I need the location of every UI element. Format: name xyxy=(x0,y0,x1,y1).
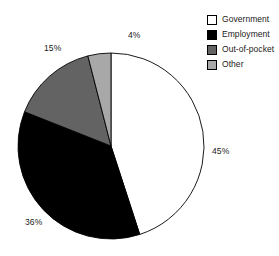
slice-label-employment: 36% xyxy=(25,217,42,227)
legend-swatch-icon xyxy=(207,60,217,70)
legend-item[interactable]: Other xyxy=(207,57,279,72)
slice-label-out-of-pocket: 15% xyxy=(44,43,61,53)
pie-chart-figure: 4% 15% 45% 36% GovernmentEmploymentOut-o… xyxy=(0,0,279,256)
legend-swatch-icon xyxy=(207,45,217,55)
legend-item-label: Employment xyxy=(222,30,270,39)
slice-label-other: 4% xyxy=(128,30,141,40)
slice-label-government: 45% xyxy=(212,146,229,156)
legend-item[interactable]: Employment xyxy=(207,27,279,42)
legend-item-label: Other xyxy=(222,60,244,69)
legend-item[interactable]: Out-of-pocket xyxy=(207,42,279,57)
legend-item-label: Out-of-pocket xyxy=(222,45,274,54)
legend-swatch-icon xyxy=(207,30,217,40)
chart-legend: GovernmentEmploymentOut-of-pocketOther xyxy=(207,12,279,72)
legend-item-label: Government xyxy=(222,15,269,24)
legend-item[interactable]: Government xyxy=(207,12,279,27)
legend-swatch-icon xyxy=(207,15,217,25)
pie-slices-group xyxy=(18,53,204,239)
